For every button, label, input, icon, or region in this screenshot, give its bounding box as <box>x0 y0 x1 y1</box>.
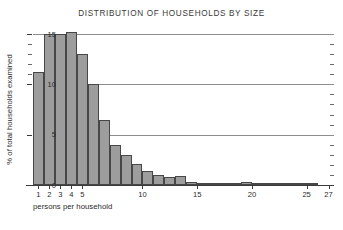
bar <box>88 84 99 185</box>
y-minor-tick-right <box>330 125 334 126</box>
y-minor-tick-right <box>330 94 334 95</box>
x-tick <box>49 186 50 189</box>
x-tick <box>71 186 72 189</box>
x-tick <box>307 186 308 189</box>
y-minor-tick <box>28 74 32 75</box>
x-tick <box>329 186 330 189</box>
plot-area <box>33 28 334 185</box>
bar-series <box>33 28 334 185</box>
bar <box>66 32 77 185</box>
x-tick <box>82 186 83 189</box>
y-tick-label: 0 <box>32 181 56 190</box>
y-minor-tick-right <box>330 44 334 45</box>
bar <box>142 171 153 185</box>
bar <box>44 34 55 185</box>
x-tick <box>38 186 39 189</box>
bar <box>110 145 121 185</box>
x-tick-label: 25 <box>299 190 315 199</box>
x-tick-label: 15 <box>189 190 205 199</box>
y-tick-label: 5 <box>32 130 56 139</box>
y-minor-tick-right <box>330 74 334 75</box>
y-minor-tick-right <box>330 175 334 176</box>
y-tick-label: 15 <box>32 30 56 39</box>
x-tick <box>252 186 253 189</box>
y-minor-tick-right <box>330 145 334 146</box>
chart-container: DISTRIBUTION OF HOUSEHOLDS BY SIZE 05101… <box>0 0 343 230</box>
x-tick-label: 10 <box>134 190 150 199</box>
y-minor-tick <box>28 54 32 55</box>
chart-title: DISTRIBUTION OF HOUSEHOLDS BY SIZE <box>0 9 343 18</box>
x-tick-label: 27 <box>321 190 337 199</box>
y-minor-tick-right <box>330 104 334 105</box>
bar <box>175 176 186 185</box>
y-minor-tick-right <box>330 54 334 55</box>
bar <box>153 175 164 185</box>
bar <box>33 72 44 185</box>
bar <box>164 177 175 185</box>
bar <box>77 54 88 185</box>
y-axis-title: % of total households examined <box>5 45 14 175</box>
y-minor-tick-right <box>330 64 334 65</box>
y-minor-tick <box>28 64 32 65</box>
x-tick-label: 20 <box>244 190 260 199</box>
bar <box>132 164 143 185</box>
y-minor-tick <box>28 44 32 45</box>
y-minor-tick-right <box>330 155 334 156</box>
x-axis-title: persons per household <box>33 202 112 211</box>
y-minor-tick-right <box>330 165 334 166</box>
x-tick <box>142 186 143 189</box>
x-tick-label: 5 <box>74 190 90 199</box>
y-minor-tick-right <box>330 115 334 116</box>
bar <box>121 155 132 185</box>
bar <box>55 34 66 185</box>
x-tick <box>197 186 198 189</box>
x-tick <box>60 186 61 189</box>
y-tick-label: 10 <box>32 80 56 89</box>
bar <box>99 120 110 185</box>
